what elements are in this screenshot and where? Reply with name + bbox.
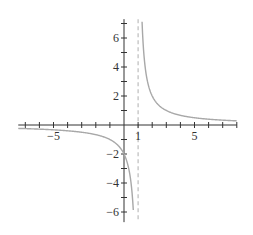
y-tick-label: −6 [106,205,119,219]
y-tick-label: 4 [113,60,119,74]
x-tick-label: −5 [47,129,60,143]
y-tick-label: −4 [106,176,119,190]
right-branch-curve [142,22,237,121]
function-plot: −515642−2−4−6 [0,0,253,235]
y-tick-label: −2 [106,147,119,161]
y-tick-label: 6 [113,31,119,45]
y-tick-label: 2 [113,89,119,103]
left-branch-curve [18,128,133,210]
x-tick-label: 5 [192,129,198,143]
axes [18,19,237,222]
curve [18,22,237,210]
x-tick-label: 1 [135,129,141,143]
